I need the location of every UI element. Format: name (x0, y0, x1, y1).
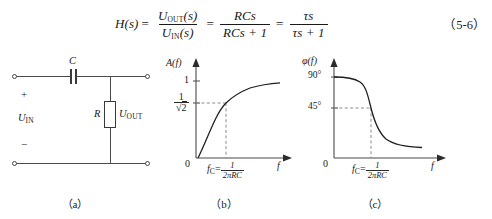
equation-equals-1: = (142, 16, 149, 32)
amplitude-cutoff-label: fC=12πRC (207, 161, 244, 179)
wire-top-right (77, 76, 148, 77)
amplitude-caption: （b） (160, 195, 288, 211)
phase-ytick-label-90: 90° (308, 70, 321, 80)
capacitor-plate-left (70, 69, 72, 84)
u-in-subscript: IN (171, 32, 179, 41)
circuit-diagram-panel: C R UOUT UIN + − （a） (0, 50, 165, 219)
u-in-arg: (s) (180, 25, 194, 40)
tau-numerator: τs (301, 9, 317, 23)
amplitude-ytick-label-one: 1 (184, 74, 189, 85)
phase-cutoff-fraction: 12πRC (366, 161, 389, 179)
transfer-ratio-numerator: UOUT(s) (155, 9, 201, 23)
phase-x-axis-arrow (437, 154, 446, 161)
polarity-plus: + (21, 88, 27, 100)
amplitude-x-axis-arrow (283, 154, 292, 161)
phase-ytick-label-45: 45° (308, 101, 321, 111)
transfer-ratio-fraction: UOUT(s) UIN(s) (155, 9, 201, 39)
output-voltage-symbol: U (119, 108, 127, 119)
phase-caption: （c） (300, 195, 450, 211)
amplitude-chart-panel: A(f) 0 1 1 √2 fC=12πRC f （b） (160, 50, 310, 219)
terminal-input-top (12, 74, 17, 79)
rc-fraction: RCs RCs + 1 (220, 9, 270, 39)
wire-bottom (16, 163, 148, 164)
amplitude-cutoff-frac-den: 2πRC (221, 170, 244, 180)
wire-top-left (16, 76, 70, 77)
tau-denominator: τs + 1 (290, 24, 328, 39)
input-voltage-label: UIN (18, 112, 34, 123)
amplitude-cutoff-fraction: 12πRC (221, 161, 244, 179)
polarity-minus: − (21, 138, 27, 150)
resistor-body (104, 101, 116, 128)
phase-chart-panel: φ(f) 90° 45° 0 fC=12πRC f （c） (300, 50, 492, 219)
equation-row: H(s) = UOUT(s) UIN(s) = RCs RCs + 1 = τs… (0, 2, 492, 46)
u-in-symbol: U (162, 25, 172, 40)
phase-y-axis-label: φ(f) (302, 55, 317, 66)
terminal-input-bottom (12, 161, 17, 166)
tau-fraction: τs τs + 1 (290, 9, 328, 39)
u-out-arg: (s) (183, 8, 197, 23)
phase-origin-label: 0 (323, 158, 328, 169)
phase-cutoff-label: fC=12πRC (352, 161, 389, 179)
input-voltage-symbol: U (18, 112, 26, 123)
phase-curve (334, 77, 422, 148)
amplitude-cutoff-sub: C (210, 167, 215, 176)
root2-denominator: √2 (174, 102, 189, 113)
amplitude-x-axis-label: f (277, 160, 280, 171)
output-voltage-subscript: OUT (127, 112, 143, 121)
amplitude-origin-label: 0 (185, 158, 190, 169)
equation-equals-3: = (276, 16, 283, 32)
rc-numerator: RCs (231, 9, 259, 23)
phase-cutoff-frac-num: 1 (373, 161, 381, 170)
terminal-output-top (145, 74, 150, 79)
resistor-label: R (94, 108, 100, 119)
phase-x-axis-label: f (431, 160, 434, 171)
equation-lhs: H(s) (115, 16, 139, 32)
amplitude-curve (198, 83, 280, 158)
circuit-caption: （a） (0, 195, 150, 211)
amplitude-cutoff-frac-num: 1 (228, 161, 236, 170)
input-voltage-subscript: IN (26, 116, 34, 125)
amplitude-ytick-label-root2: 1 √2 (174, 91, 189, 114)
wire-shunt-lower (110, 128, 111, 163)
output-voltage-label: UOUT (119, 108, 143, 119)
terminal-output-bottom (145, 161, 150, 166)
phase-y-axis-arrow (330, 58, 337, 67)
wire-shunt-upper (110, 76, 111, 101)
equation-equals-2: = (207, 16, 214, 32)
transfer-ratio-denominator: UIN(s) (159, 24, 197, 39)
u-out-subscript: OUT (167, 15, 183, 24)
phase-cutoff-frac-den: 2πRC (366, 170, 389, 180)
figure-page: H(s) = UOUT(s) UIN(s) = RCs RCs + 1 = τs… (0, 0, 492, 219)
amplitude-y-axis-arrow (192, 58, 199, 67)
equation-number: （5-6） (443, 14, 486, 33)
rc-denominator: RCs + 1 (220, 24, 270, 39)
amplitude-y-axis-label-text: A(f) (166, 57, 182, 68)
phase-cutoff-sub: C (355, 167, 360, 176)
amplitude-y-axis-label: A(f) (166, 57, 182, 68)
phase-y-axis-label-text: φ(f) (302, 55, 317, 66)
capacitor-label: C (69, 55, 76, 66)
one-over-root-two-fraction: 1 √2 (174, 92, 189, 114)
equation-expression: H(s) = UOUT(s) UIN(s) = RCs RCs + 1 = τs… (115, 2, 331, 46)
